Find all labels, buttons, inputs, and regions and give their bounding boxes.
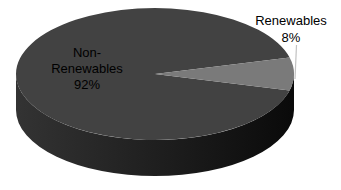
label-non-renewables: Non- Renewables 92% bbox=[36, 45, 138, 93]
label-renewables-line1: Renewables bbox=[247, 12, 335, 29]
label-renewables: Renewables 8% bbox=[247, 12, 335, 46]
pie-chart-3d: Non- Renewables 92% Renewables 8% bbox=[0, 0, 341, 190]
label-non-renewables-line2: Renewables bbox=[36, 61, 138, 77]
label-non-renewables-value: 92% bbox=[36, 77, 138, 93]
label-non-renewables-line1: Non- bbox=[36, 45, 138, 61]
leader-line-renewables bbox=[295, 45, 297, 79]
label-renewables-value: 8% bbox=[247, 29, 335, 46]
